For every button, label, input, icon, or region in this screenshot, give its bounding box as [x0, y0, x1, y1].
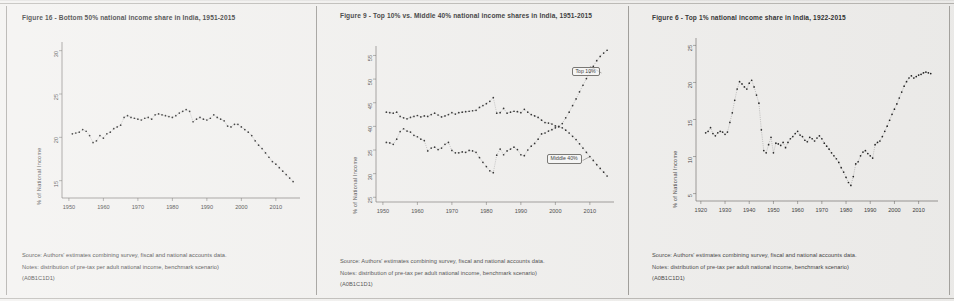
- panel-2-y-tick: 35: [367, 150, 373, 156]
- panel-3-chart: % of National Income 5101520251920193019…: [630, 28, 954, 233]
- panel-1-code: (A0B1C1D1): [22, 273, 227, 285]
- panel-3-y-tick: 15: [687, 120, 693, 126]
- panel-2-notes: Notes: distribution of pre-tax per adult…: [340, 268, 545, 280]
- panel-1-notes: Notes: distribution of pre-tax per adult…: [22, 262, 227, 274]
- panel-2-x-tick: 1980: [480, 208, 492, 214]
- panel-1-footer: Source: Authors' estimates combining sur…: [22, 250, 227, 285]
- annotation-top-10-percent: Top 10%: [572, 67, 600, 76]
- figure-panel-3: Figure 6 - Top 1% national income share …: [630, 0, 954, 301]
- panel-2-y-tick: 40: [367, 126, 373, 132]
- panel-2-x-tick: 1990: [515, 208, 527, 214]
- panel-3-x-tick: 1970: [816, 207, 828, 213]
- panel-2-x-tick: 2000: [549, 208, 561, 214]
- figure-panel-2: Figure 9 - Top 10% vs. Middle 40% nation…: [318, 0, 630, 301]
- panel-3-y-tick: 10: [687, 157, 693, 163]
- panel-1-title: Figure 16 - Bottom 50% national income s…: [22, 13, 297, 23]
- panel-3-source: Source: Authors' estimates combining sur…: [652, 250, 857, 262]
- panel-3-x-tick: 2000: [888, 207, 900, 213]
- panel-3-y-axis-label: % of National Income: [672, 150, 678, 208]
- panel-2-x-tick: 1960: [411, 208, 423, 214]
- panel-3-title: Figure 6 - Top 1% national income share …: [652, 13, 942, 23]
- panel-3-x-tick: 1980: [840, 207, 852, 213]
- panel-1-source: Source: Authors' estimates combining sur…: [22, 250, 227, 262]
- figure-panel-1: Figure 16 - Bottom 50% national income s…: [0, 0, 318, 301]
- panel-2-chart: % of National Income Top 10% Middle 40% …: [318, 36, 630, 234]
- panel-2-title: Figure 9 - Top 10% vs. Middle 40% nation…: [340, 11, 602, 21]
- panel-1-x-tick: 1950: [63, 204, 75, 210]
- panel-2-x-tick: 1970: [446, 208, 458, 214]
- panel-2-y-tick: 45: [367, 103, 373, 109]
- panel-2-y-tick: 25: [367, 197, 373, 203]
- panel-3-x-tick: 1930: [719, 207, 731, 213]
- panel-2-y-axis-label: % of National Income: [352, 156, 358, 214]
- panel-3-x-tick: 1960: [791, 207, 803, 213]
- panel-1-y-tick: 30: [53, 51, 59, 57]
- panel-1-x-tick: 2010: [270, 204, 282, 210]
- panel-1-y-tick: 25: [53, 94, 59, 100]
- panel-3-code: (A0B1C1D1): [652, 273, 857, 285]
- panel-1-y-tick: 15: [53, 181, 59, 187]
- panel-1-x-tick: 1970: [132, 204, 144, 210]
- panel-3-x-tick: 1940: [743, 207, 755, 213]
- panel-3-x-tick: 1920: [695, 207, 707, 213]
- panel-2-code: (A0B1C1D1): [340, 279, 545, 291]
- panel-3-y-tick: 5: [687, 194, 693, 197]
- panel-1-chart: % of National Income 1520253019501960197…: [0, 30, 318, 230]
- panel-2-footer: Source: Authors' estimates combining sur…: [340, 256, 545, 291]
- panel-3-y-tick: 25: [687, 45, 693, 51]
- panel-2-y-tick: 50: [367, 79, 373, 85]
- panel-1-y-axis-label: % of National Income: [36, 147, 42, 205]
- panel-2-x-tick: 1950: [377, 208, 389, 214]
- panel-1-x-tick: 1990: [201, 204, 213, 210]
- panel-1-y-tick: 20: [53, 137, 59, 143]
- panel-2-plot: [318, 36, 630, 234]
- panel-3-plot: [630, 28, 954, 233]
- figure-panels: Figure 16 - Bottom 50% national income s…: [0, 0, 954, 301]
- panel-1-x-tick: 2000: [235, 204, 247, 210]
- panel-1-x-tick: 1980: [166, 204, 178, 210]
- panel-2-x-tick: 2010: [584, 208, 596, 214]
- panel-3-footer: Source: Authors' estimates combining sur…: [652, 250, 857, 285]
- panel-1-plot: [0, 30, 318, 230]
- panel-3-notes: Notes: distribution of pre-tax per adult…: [652, 262, 857, 274]
- panel-2-source: Source: Authors' estimates combining sur…: [340, 256, 545, 268]
- panel-3-x-tick: 1950: [767, 207, 779, 213]
- panel-3-y-tick: 20: [687, 82, 693, 88]
- annotation-middle-40-percent: Middle 40%: [547, 154, 582, 163]
- panel-2-y-tick: 30: [367, 174, 373, 180]
- panel-1-x-tick: 1960: [97, 204, 109, 210]
- panel-3-x-tick: 2010: [912, 207, 924, 213]
- panel-2-y-tick: 55: [367, 55, 373, 61]
- panel-3-x-tick: 1990: [864, 207, 876, 213]
